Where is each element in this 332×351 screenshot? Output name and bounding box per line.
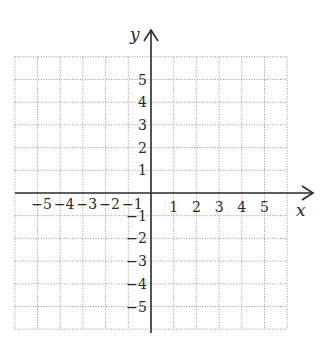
x-tick-label: 3	[215, 199, 224, 215]
x-tick-label: 2	[192, 199, 201, 215]
y-tick-label: 3	[138, 117, 147, 133]
x-tick-label: −4	[54, 196, 75, 212]
y-tick-label: −4	[126, 276, 147, 292]
x-tick-label: 1	[169, 199, 178, 215]
x-tick-label: −3	[77, 196, 98, 212]
x-tick-labels: −5−4−3−2−112345	[31, 196, 269, 215]
x-tick-label: 4	[237, 199, 246, 215]
y-tick-label: −1	[126, 208, 147, 224]
y-axis-label: y	[129, 24, 140, 44]
x-tick-label: 5	[260, 199, 269, 215]
axes	[15, 30, 313, 333]
y-tick-label: 2	[138, 140, 147, 156]
coordinate-plane: x y −5−4−3−2−112345 54321−1−2−3−4−5	[0, 0, 332, 351]
y-tick-label: −5	[126, 299, 147, 315]
y-tick-label: 4	[138, 94, 147, 110]
x-tick-label: −5	[31, 196, 52, 212]
y-tick-label: 5	[138, 72, 147, 88]
x-tick-label: −2	[99, 196, 120, 212]
x-axis-label: x	[296, 200, 306, 220]
y-tick-label: −3	[126, 253, 147, 269]
y-tick-label: −2	[126, 230, 147, 246]
y-tick-label: 1	[138, 162, 147, 178]
